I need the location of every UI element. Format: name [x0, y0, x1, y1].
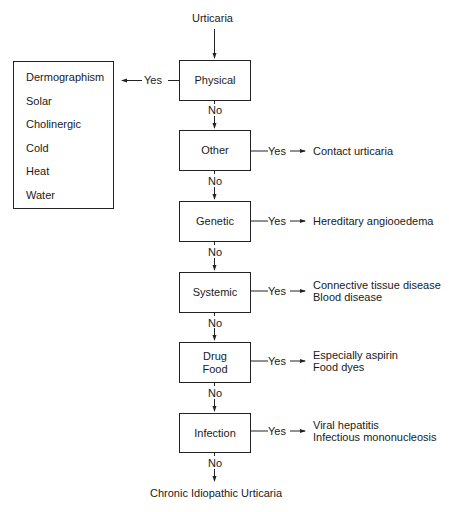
- yes-label: Yes: [268, 355, 286, 368]
- no-label: No: [208, 317, 222, 330]
- decision-label: Physical: [195, 74, 236, 87]
- outcome-systemic-2: Blood disease: [313, 291, 382, 304]
- decision-drug-food: Drug Food: [179, 342, 251, 383]
- decision-label: Systemic: [193, 286, 238, 299]
- decision-label: Food: [202, 363, 227, 376]
- outcome-item: Water: [26, 189, 113, 213]
- decision-label: Genetic: [196, 215, 234, 228]
- decision-label: Drug: [203, 350, 227, 363]
- decision-physical: Physical: [179, 60, 251, 101]
- physical-outcomes-list: Dermographism Solar Cholinergic Cold Hea…: [13, 61, 114, 209]
- outcome-infection-2: Infectious mononucleosis: [313, 431, 437, 444]
- decision-other: Other: [179, 130, 251, 171]
- decision-systemic: Systemic: [179, 272, 251, 313]
- outcome-item: Heat: [26, 165, 113, 189]
- outcome-item: Cold: [26, 142, 113, 166]
- outcome-item: Dermographism: [26, 71, 113, 95]
- yes-label: Yes: [268, 145, 286, 158]
- decision-infection: Infection: [179, 413, 251, 453]
- no-label: No: [208, 104, 222, 117]
- outcome-item: Cholinergic: [26, 118, 113, 142]
- yes-label: Yes: [268, 425, 286, 438]
- decision-label: Other: [201, 144, 229, 157]
- decision-genetic: Genetic: [179, 201, 251, 242]
- no-label: No: [208, 457, 222, 470]
- yes-label: Yes: [268, 215, 286, 228]
- start-label: Urticaria: [192, 12, 233, 25]
- no-label: No: [208, 387, 222, 400]
- yes-label: Yes: [268, 285, 286, 298]
- outcome-drug-2: Food dyes: [313, 361, 364, 374]
- end-label: Chronic Idiopathic Urticaria: [150, 487, 282, 500]
- outcome-other: Contact urticaria: [313, 145, 393, 158]
- outcome-genetic: Hereditary angiooedema: [313, 215, 433, 228]
- decision-label: Infection: [194, 427, 236, 440]
- outcome-item: Solar: [26, 95, 113, 119]
- no-label: No: [208, 175, 222, 188]
- no-label: No: [208, 246, 222, 259]
- yes-label-physical: Yes: [144, 74, 162, 87]
